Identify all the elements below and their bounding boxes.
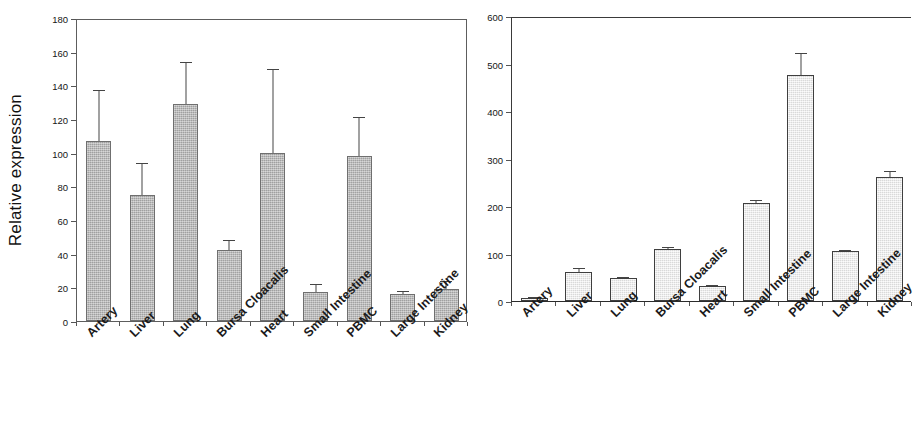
bar-group-item [303, 18, 328, 321]
y-axis-tick-label: 300 [467, 155, 503, 166]
y-axis-tick [71, 53, 76, 54]
error-bar-cap [839, 250, 851, 251]
x-axis-tick [250, 322, 251, 326]
error-bar-cap [397, 291, 409, 292]
y-axis-tick-label: 160 [32, 48, 68, 59]
error-bar-line [98, 90, 99, 141]
error-bar-line [800, 53, 801, 76]
y-axis-tick-label: 40 [32, 250, 68, 261]
y-axis-tick [71, 221, 76, 222]
bar-group-item [173, 18, 198, 321]
x-axis-tick [555, 302, 556, 306]
x-axis-tick [778, 302, 779, 306]
bar [876, 177, 903, 301]
y-axis-tick [506, 207, 511, 208]
x-axis-tick [293, 322, 294, 326]
error-bar-cap [573, 268, 585, 269]
error-bar-line [185, 62, 186, 104]
y-axis-tick [506, 160, 511, 161]
bar-group-item [217, 18, 242, 321]
chart-panel-right: 0100200300400500600 ArteryLiverLungBursa… [470, 0, 908, 439]
error-bar-cap [310, 284, 322, 285]
error-bar-cap [180, 62, 192, 63]
y-axis-tick-label: 120 [32, 115, 68, 126]
bar-group-item [610, 16, 637, 301]
y-axis-tick-label: 100 [32, 149, 68, 160]
chart-panel-left: Relative expression 02040608010012014016… [0, 0, 470, 439]
error-bar-cap [136, 163, 148, 164]
y-axis-tick-label: 400 [467, 107, 503, 118]
x-axis-tick [644, 302, 645, 306]
x-axis-tick [867, 302, 868, 306]
y-axis-tick-label: 80 [32, 182, 68, 193]
error-bar-cap [662, 247, 674, 248]
x-axis-tick [733, 302, 734, 306]
x-axis-tick [206, 322, 207, 326]
error-bar-line [315, 284, 316, 292]
y-axis-tick [71, 86, 76, 87]
x-axis-tick [467, 322, 468, 326]
y-axis-tick-label: 600 [467, 12, 503, 23]
x-axis-tick [600, 302, 601, 306]
y-axis-tick-label: 140 [32, 81, 68, 92]
y-axis-tick-label: 0 [467, 297, 503, 308]
error-bar-line [229, 240, 230, 250]
y-axis-tick-label: 0 [32, 317, 68, 328]
error-bar-line [359, 117, 360, 156]
y-axis-tick [71, 255, 76, 256]
error-bar-cap [884, 171, 896, 172]
bar-group-item [521, 16, 548, 301]
bar-group-item [832, 16, 859, 301]
error-bar-cap [706, 285, 718, 286]
y-axis-tick [71, 154, 76, 155]
bar-group-item [654, 16, 681, 301]
x-axis-tick [380, 322, 381, 326]
error-bar-cap [750, 200, 762, 201]
y-axis-tick-label: 180 [32, 14, 68, 25]
error-bar-cap [795, 53, 807, 54]
y-axis-tick [506, 17, 511, 18]
y-axis-tick-label: 200 [467, 202, 503, 213]
y-axis-tick [71, 19, 76, 20]
y-axis-tick-label: 100 [467, 250, 503, 261]
error-bar-cap [223, 240, 235, 241]
y-axis-tick-label: 20 [32, 283, 68, 294]
y-axis-title-left: Relative expression [6, 94, 26, 246]
error-bar-line [142, 163, 143, 195]
bar-group-item [743, 16, 770, 301]
x-axis-tick [424, 322, 425, 326]
x-axis-tick [119, 322, 120, 326]
x-axis-tick [76, 322, 77, 326]
error-bar-line [272, 69, 273, 153]
x-axis-tick [911, 302, 912, 306]
bar-group-item [390, 18, 415, 321]
bar [130, 195, 155, 321]
error-bar-cap [267, 69, 279, 70]
y-axis-tick-label: 60 [32, 216, 68, 227]
error-bar-cap [93, 90, 105, 91]
x-axis-tick [163, 322, 164, 326]
error-bar-cap [617, 277, 629, 278]
y-axis-tick [506, 65, 511, 66]
x-axis-tick [511, 302, 512, 306]
y-axis-tick [71, 187, 76, 188]
bar-group-item [565, 16, 592, 301]
bar [86, 141, 111, 321]
bar-group-item [130, 18, 155, 321]
y-axis-tick [506, 112, 511, 113]
error-bar-cap [353, 117, 365, 118]
bar-group-item [86, 18, 111, 321]
y-axis-tick [71, 120, 76, 121]
y-axis-tick [71, 288, 76, 289]
bar [173, 104, 198, 321]
y-axis-tick-label: 500 [467, 60, 503, 71]
x-axis-tick [822, 302, 823, 306]
x-axis-tick [337, 322, 338, 326]
y-axis-tick [506, 255, 511, 256]
x-axis-tick [689, 302, 690, 306]
